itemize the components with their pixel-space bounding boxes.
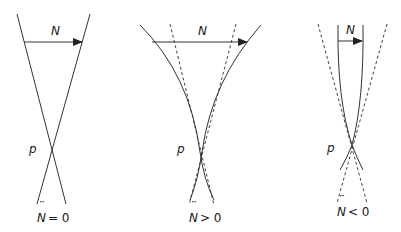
diagram-canvas: N p N ¨ = 0 N p N ¨ > 0 bbox=[0, 0, 401, 232]
caption-relation: > 0 bbox=[200, 211, 222, 225]
caption: N ¨ < 0 bbox=[337, 193, 370, 219]
caption-symbol: N bbox=[337, 205, 346, 219]
double-dot-icon: ¨ bbox=[39, 199, 45, 213]
reference-line-left bbox=[318, 24, 367, 203]
vector-label: N bbox=[198, 24, 207, 38]
vector-label: N bbox=[51, 24, 60, 38]
caption-symbol: N bbox=[189, 211, 198, 225]
caption-symbol: N bbox=[37, 211, 46, 225]
vector-label: N bbox=[346, 23, 355, 37]
caption-relation: = 0 bbox=[48, 211, 70, 225]
caption: N ¨ > 0 bbox=[189, 199, 222, 225]
point-label: p bbox=[28, 142, 37, 156]
caption-relation: < 0 bbox=[348, 205, 370, 219]
caption: N ¨ = 0 bbox=[37, 199, 70, 225]
reference-line-right bbox=[189, 24, 236, 205]
panel-negative: N p N ¨ < 0 bbox=[318, 23, 387, 219]
panel-positive: N p N ¨ > 0 bbox=[140, 24, 261, 225]
double-dot-icon: ¨ bbox=[191, 199, 197, 213]
double-dot-icon: ¨ bbox=[339, 193, 345, 207]
geodesic-right bbox=[190, 25, 261, 200]
point-label: p bbox=[326, 141, 335, 155]
point-label: p bbox=[176, 142, 185, 156]
panel-zero: N p N ¨ = 0 bbox=[17, 14, 90, 225]
